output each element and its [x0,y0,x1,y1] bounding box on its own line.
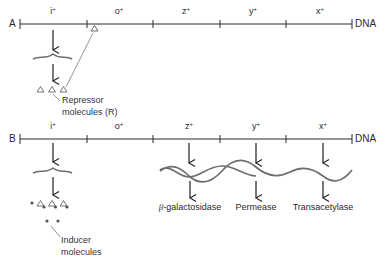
mrna-i-b [33,168,72,173]
gene-label-y-b: y+ [252,121,260,131]
repressor-label: Repressor molecules (R) [62,94,118,118]
repressor-pointer [53,94,60,101]
gene-sup: + [120,121,124,127]
bound-repressor-icon [91,26,98,32]
product-name: -galactosidase [163,202,221,212]
gene-sup: + [320,6,324,12]
inducer-label: Inducer molecules [61,234,102,258]
gene-label-i-b: i+ [50,121,56,131]
gene-sup: + [120,6,124,12]
gene-sup: + [256,121,260,127]
gene-sup: + [323,121,327,127]
inducer-repressor-complexes [30,201,68,209]
gene-label-o-a: o+ [115,6,124,16]
inducer-label-line2: molecules [61,246,102,258]
gene-label-y-a: y+ [249,6,257,16]
product-name: Transacetylase [293,202,354,212]
gene-sup: + [52,6,56,12]
binding-line [66,33,93,87]
dna-label-a: DNA [355,19,376,29]
product-beta-galactosidase: β-galactosidase [159,203,222,212]
dna-strand-a [20,19,352,29]
panel-b-label: B [9,134,16,144]
lac-operon-diagram [0,0,387,261]
gene-label-i-a: i+ [50,6,56,16]
repressor-label-line2: molecules (R) [62,106,118,118]
repressor-label-line1: Repressor [62,94,118,106]
gene-label-o-b: o+ [115,121,124,131]
product-transacetylase: Transacetylase [293,203,354,212]
gene-label-z-a: z+ [182,6,190,16]
inducer-label-line1: Inducer [61,234,102,246]
dna-strand-b [20,134,352,144]
gene-label-z-b: z+ [185,121,193,131]
product-permease: Permease [235,203,276,212]
free-inducer-molecules [45,219,59,222]
dna-label-b: DNA [355,134,376,144]
polycistronic-mrna-wave [160,160,352,182]
product-name: Permease [235,202,276,212]
panel-b [20,134,352,237]
gene-sup: + [253,6,257,12]
panel-a-label: A [9,19,16,29]
gene-label-x-a: x+ [316,6,324,16]
gene-sup: + [189,121,193,127]
inducer-pointer [51,226,60,237]
gene-sup: + [186,6,190,12]
panel-a [20,19,352,101]
gene-sup: + [52,121,56,127]
gene-label-x-b: x+ [319,121,327,131]
mrna-i-a [33,54,72,59]
repressor-molecules [37,87,67,93]
